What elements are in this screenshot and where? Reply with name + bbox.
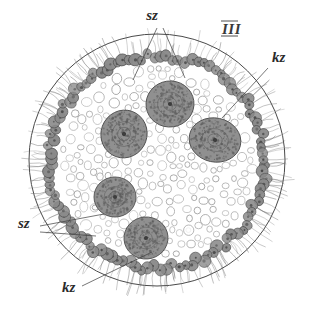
label-sz-bottom-left: sz	[17, 215, 30, 231]
somatic-cell-nucleus	[222, 77, 225, 80]
somatic-cell-nucleus	[213, 251, 216, 254]
flagellum	[78, 63, 90, 77]
somatic-cell-nucleus	[245, 223, 248, 226]
somatic-cell-nucleus	[134, 58, 137, 61]
somatic-cell-nucleus	[262, 153, 264, 155]
flagellum	[266, 159, 288, 160]
somatic-cell-nucleus	[261, 169, 264, 172]
somatic-cell-nucleus	[49, 189, 52, 192]
somatic-cell-nucleus	[251, 211, 254, 214]
flagellum	[31, 143, 46, 146]
somatic-cell-nucleus	[197, 61, 200, 64]
flagellum	[41, 104, 60, 110]
somatic-cell-nucleus	[247, 216, 249, 218]
somatic-cell-nucleus	[147, 53, 149, 55]
somatic-cell-nucleus	[46, 144, 49, 147]
somatic-cell-nucleus	[91, 73, 93, 75]
somatic-cell-nucleus	[88, 246, 90, 248]
flagellum	[251, 218, 270, 234]
somatic-cell-nucleus	[109, 63, 111, 65]
somatic-cell-nucleus	[61, 110, 64, 113]
gonidium-nucleus	[113, 195, 117, 199]
somatic-cell-nucleus	[50, 153, 52, 155]
somatic-cell-nucleus	[190, 263, 193, 266]
somatic-cell-nucleus	[72, 95, 75, 98]
somatic-cell-nucleus	[256, 122, 258, 124]
flagellum	[260, 109, 281, 122]
flagellum	[103, 260, 110, 284]
label-kz-bottom-left: kz	[62, 279, 76, 295]
volvox-illustration: sz kz sz kz III	[0, 0, 314, 309]
somatic-cell-nucleus	[100, 249, 102, 251]
somatic-cell-nucleus	[121, 59, 124, 62]
gonidium-lower-left	[94, 177, 136, 217]
flagellum	[61, 239, 79, 259]
flagellum	[143, 272, 147, 296]
flagellum	[240, 236, 258, 252]
flagellum	[127, 265, 130, 285]
flagellum	[194, 31, 201, 56]
somatic-cell-nucleus	[53, 121, 55, 123]
somatic-cell-nucleus	[169, 262, 172, 265]
somatic-cell-nucleus	[247, 98, 250, 101]
somatic-cell-nucleus	[178, 265, 181, 268]
somatic-cell-nucleus	[226, 237, 229, 240]
somatic-cell-nucleus	[262, 133, 264, 135]
somatic-cell-nucleus	[184, 61, 187, 64]
somatic-cell-nucleus	[207, 64, 210, 67]
somatic-cell-nucleus	[71, 226, 74, 229]
flagellum	[50, 92, 67, 101]
somatic-cell-nucleus	[258, 200, 261, 203]
flagellum	[109, 263, 116, 280]
flagellum	[267, 185, 287, 192]
somatic-cell-nucleus	[91, 251, 94, 254]
flagellum	[267, 163, 286, 166]
somatic-cell-nucleus	[146, 267, 149, 270]
flagellum	[246, 232, 266, 247]
flagellum	[23, 170, 45, 172]
somatic-cell-nucleus	[54, 194, 57, 197]
somatic-cell-nucleus	[159, 269, 161, 271]
somatic-cell-nucleus	[215, 244, 217, 246]
somatic-cell-nucleus	[79, 236, 81, 238]
somatic-cell-nucleus	[49, 184, 51, 186]
flagellum	[166, 30, 168, 52]
label-sz-top: sz	[145, 7, 158, 23]
somatic-cell-nucleus	[195, 257, 197, 259]
somatic-cell-nucleus	[53, 200, 55, 202]
somatic-cell-nucleus	[62, 209, 65, 212]
flagellum	[264, 143, 284, 147]
somatic-cell-nucleus	[203, 62, 205, 64]
somatic-cell-nucleus	[202, 259, 205, 262]
label-kz-top-right: kz	[272, 49, 286, 65]
flagellum	[48, 219, 62, 232]
somatic-cell-nucleus	[215, 69, 217, 71]
somatic-cell-nucleus	[54, 129, 57, 132]
somatic-cell-nucleus	[248, 103, 251, 106]
flagellum	[264, 141, 285, 147]
somatic-cell-nucleus	[244, 229, 246, 231]
somatic-cell-nucleus	[262, 159, 264, 161]
flagellum	[30, 163, 49, 165]
flagellum	[137, 273, 141, 293]
somatic-cell-nucleus	[69, 221, 71, 223]
flagellum	[157, 32, 160, 53]
somatic-cell-nucleus	[165, 54, 168, 57]
somatic-cell-nucleus	[236, 92, 238, 94]
somatic-cell-nucleus	[49, 133, 52, 136]
somatic-cell-nucleus	[61, 103, 64, 106]
somatic-cell-nucleus	[250, 204, 253, 207]
flagellum	[71, 71, 85, 82]
somatic-cell-nucleus	[74, 88, 77, 91]
somatic-cell-nucleus	[225, 246, 227, 248]
somatic-cell-nucleus	[258, 194, 260, 196]
somatic-cell-nucleus	[255, 128, 258, 131]
flagellum	[217, 53, 226, 68]
flagellum	[58, 235, 73, 245]
flagellum	[259, 109, 285, 116]
label-plate-numeral: III	[221, 21, 242, 37]
somatic-cell-nucleus	[53, 139, 56, 142]
figure-canvas: sz kz sz kz III	[0, 0, 314, 309]
somatic-cell-nucleus	[47, 170, 50, 173]
flagellum	[250, 227, 272, 242]
